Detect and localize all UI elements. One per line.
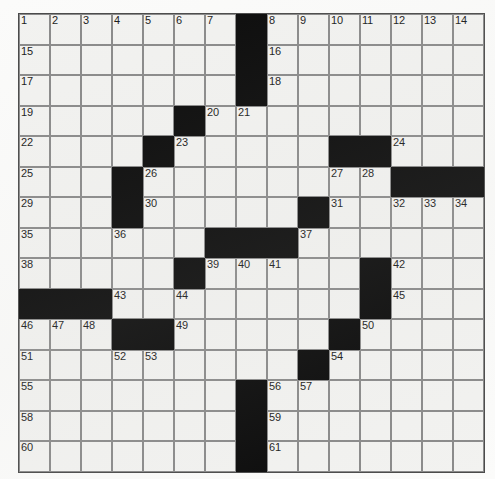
crossword-cell[interactable]: 35: [19, 228, 50, 259]
crossword-grid[interactable]: 1234567891011121314151617181920212223242…: [18, 13, 485, 473]
crossword-cell[interactable]: [50, 197, 81, 228]
crossword-cell[interactable]: 39: [205, 258, 236, 289]
crossword-cell[interactable]: [174, 228, 205, 259]
crossword-cell[interactable]: [205, 441, 236, 472]
crossword-cell[interactable]: [143, 258, 174, 289]
crossword-cell[interactable]: 26: [143, 167, 174, 198]
crossword-cell[interactable]: [174, 197, 205, 228]
crossword-cell[interactable]: 48: [81, 319, 112, 350]
crossword-cell[interactable]: [205, 167, 236, 198]
crossword-cell[interactable]: [298, 441, 329, 472]
crossword-cell[interactable]: 11: [360, 14, 391, 45]
crossword-cell[interactable]: [143, 228, 174, 259]
crossword-cell[interactable]: 16: [267, 45, 298, 76]
crossword-cell[interactable]: [50, 380, 81, 411]
crossword-cell[interactable]: [143, 380, 174, 411]
crossword-cell[interactable]: [391, 106, 422, 137]
crossword-cell[interactable]: 56: [267, 380, 298, 411]
crossword-cell[interactable]: 58: [19, 411, 50, 442]
crossword-cell[interactable]: [112, 441, 143, 472]
crossword-cell[interactable]: 53: [143, 350, 174, 381]
crossword-cell[interactable]: [81, 106, 112, 137]
crossword-cell[interactable]: 50: [360, 319, 391, 350]
crossword-cell[interactable]: [329, 441, 360, 472]
crossword-cell[interactable]: [360, 106, 391, 137]
crossword-cell[interactable]: 13: [422, 14, 453, 45]
crossword-cell[interactable]: 54: [329, 350, 360, 381]
crossword-cell[interactable]: [205, 45, 236, 76]
crossword-cell[interactable]: [298, 167, 329, 198]
crossword-cell[interactable]: [143, 441, 174, 472]
crossword-cell[interactable]: [50, 350, 81, 381]
crossword-cell[interactable]: 12: [391, 14, 422, 45]
crossword-cell[interactable]: [112, 258, 143, 289]
crossword-cell[interactable]: [360, 380, 391, 411]
crossword-cell[interactable]: 38: [19, 258, 50, 289]
crossword-cell[interactable]: 60: [19, 441, 50, 472]
crossword-cell[interactable]: [81, 136, 112, 167]
crossword-cell[interactable]: [50, 75, 81, 106]
crossword-cell[interactable]: [391, 411, 422, 442]
crossword-cell[interactable]: 55: [19, 380, 50, 411]
crossword-cell[interactable]: [391, 228, 422, 259]
crossword-cell[interactable]: [174, 75, 205, 106]
crossword-cell[interactable]: [329, 75, 360, 106]
crossword-cell[interactable]: [81, 411, 112, 442]
crossword-cell[interactable]: 29: [19, 197, 50, 228]
crossword-cell[interactable]: 59: [267, 411, 298, 442]
crossword-cell[interactable]: [298, 75, 329, 106]
crossword-cell[interactable]: [81, 228, 112, 259]
crossword-cell[interactable]: [453, 411, 484, 442]
crossword-cell[interactable]: [422, 289, 453, 320]
crossword-cell[interactable]: [267, 197, 298, 228]
crossword-cell[interactable]: 18: [267, 75, 298, 106]
crossword-cell[interactable]: 51: [19, 350, 50, 381]
crossword-cell[interactable]: [236, 289, 267, 320]
crossword-cell[interactable]: [267, 289, 298, 320]
crossword-cell[interactable]: [422, 411, 453, 442]
crossword-cell[interactable]: [267, 106, 298, 137]
crossword-cell[interactable]: 34: [453, 197, 484, 228]
crossword-cell[interactable]: [205, 75, 236, 106]
crossword-cell[interactable]: [81, 258, 112, 289]
crossword-cell[interactable]: [50, 45, 81, 76]
crossword-cell[interactable]: [453, 350, 484, 381]
crossword-cell[interactable]: [298, 411, 329, 442]
crossword-cell[interactable]: 30: [143, 197, 174, 228]
crossword-cell[interactable]: [391, 350, 422, 381]
crossword-cell[interactable]: 20: [205, 106, 236, 137]
crossword-cell[interactable]: [453, 45, 484, 76]
crossword-cell[interactable]: [81, 441, 112, 472]
crossword-cell[interactable]: 42: [391, 258, 422, 289]
crossword-cell[interactable]: [453, 258, 484, 289]
crossword-cell[interactable]: 7: [205, 14, 236, 45]
crossword-cell[interactable]: [236, 167, 267, 198]
crossword-cell[interactable]: [453, 136, 484, 167]
crossword-cell[interactable]: 14: [453, 14, 484, 45]
crossword-cell[interactable]: 24: [391, 136, 422, 167]
crossword-cell[interactable]: [81, 197, 112, 228]
crossword-cell[interactable]: [453, 289, 484, 320]
crossword-cell[interactable]: [81, 75, 112, 106]
crossword-cell[interactable]: 43: [112, 289, 143, 320]
crossword-cell[interactable]: [81, 380, 112, 411]
crossword-cell[interactable]: 8: [267, 14, 298, 45]
crossword-cell[interactable]: [50, 441, 81, 472]
crossword-cell[interactable]: [422, 136, 453, 167]
crossword-cell[interactable]: 57: [298, 380, 329, 411]
crossword-cell[interactable]: [267, 350, 298, 381]
crossword-cell[interactable]: [360, 228, 391, 259]
crossword-cell[interactable]: 10: [329, 14, 360, 45]
crossword-cell[interactable]: 49: [174, 319, 205, 350]
crossword-cell[interactable]: [298, 319, 329, 350]
crossword-cell[interactable]: [50, 258, 81, 289]
crossword-cell[interactable]: [329, 380, 360, 411]
crossword-cell[interactable]: [422, 45, 453, 76]
crossword-cell[interactable]: [298, 289, 329, 320]
crossword-cell[interactable]: [50, 167, 81, 198]
crossword-cell[interactable]: 6: [174, 14, 205, 45]
crossword-cell[interactable]: 61: [267, 441, 298, 472]
crossword-cell[interactable]: 40: [236, 258, 267, 289]
crossword-cell[interactable]: [422, 319, 453, 350]
crossword-cell[interactable]: [112, 380, 143, 411]
